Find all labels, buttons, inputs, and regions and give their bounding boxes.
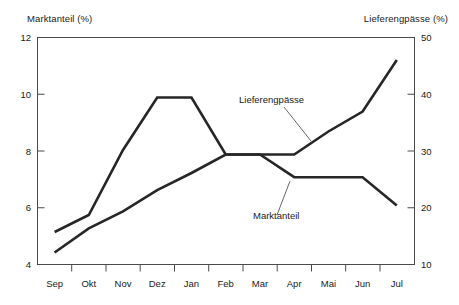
x-tick-mai: Mai — [311, 278, 345, 289]
chart-canvas — [0, 0, 459, 305]
plot-frame — [38, 38, 415, 265]
annotation-marktanteil: Marktanteil — [253, 210, 299, 221]
y-left-tick-4: 4 — [9, 259, 31, 270]
x-tick-jun: Jun — [346, 278, 380, 289]
series-line-lieferengpaesse — [55, 60, 397, 232]
y-right-tick-30: 30 — [421, 146, 445, 157]
annotation-lieferengpaesse: Lieferengpässe — [239, 94, 304, 105]
y-left-tick-12: 12 — [9, 32, 31, 43]
y-left-tick-8: 8 — [9, 146, 31, 157]
line-chart: Marktanteil (%) Lieferengpässe (%) — [0, 0, 459, 305]
x-axis-ticks — [72, 265, 380, 272]
x-tick-dez: Dez — [140, 278, 174, 289]
y-right-tick-50: 50 — [421, 32, 445, 43]
leader-line-lieferengpaesse — [284, 107, 311, 141]
x-tick-feb: Feb — [209, 278, 243, 289]
left-axis-ticks — [38, 94, 45, 208]
y-right-tick-10: 10 — [421, 259, 445, 270]
y-left-tick-6: 6 — [9, 202, 31, 213]
x-tick-okt: Okt — [72, 278, 106, 289]
y-right-tick-40: 40 — [421, 89, 445, 100]
x-tick-apr: Apr — [277, 278, 311, 289]
x-tick-sep: Sep — [38, 278, 72, 289]
x-tick-jan: Jan — [175, 278, 209, 289]
y-right-tick-20: 20 — [421, 202, 445, 213]
x-tick-jul: Jul — [380, 278, 414, 289]
series-line-marktanteil — [55, 155, 397, 253]
right-axis-ticks — [408, 94, 415, 208]
x-tick-mar: Mar — [243, 278, 277, 289]
y-left-tick-10: 10 — [9, 89, 31, 100]
x-tick-nov: Nov — [106, 278, 140, 289]
